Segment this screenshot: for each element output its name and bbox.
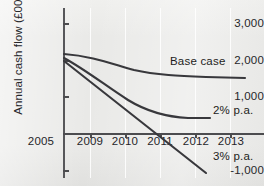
- series-label-three-percent: 3% p.a.: [213, 150, 253, 162]
- series-label-two-percent: 2% p.a.: [213, 104, 253, 116]
- series-label-base-case: Base case: [170, 55, 226, 67]
- chart-figure: 3,000 2,000 1,000 -1,000 Annual cash flo…: [0, 0, 264, 186]
- series-line-two-percent: [64, 58, 210, 118]
